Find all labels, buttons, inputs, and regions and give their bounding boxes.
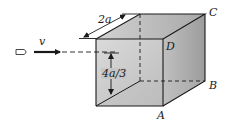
height-dimension-label: 4a/3 (101, 68, 127, 79)
box-diagram (0, 0, 231, 125)
corner-label-d: D (166, 41, 175, 52)
corner-label-c: C (209, 7, 217, 18)
corner-label-a: A (157, 110, 165, 121)
bullet-icon (16, 50, 26, 55)
corner-label-b: B (209, 80, 217, 91)
depth-dimension-label: 2a (98, 14, 112, 25)
velocity-label: v (39, 36, 45, 47)
